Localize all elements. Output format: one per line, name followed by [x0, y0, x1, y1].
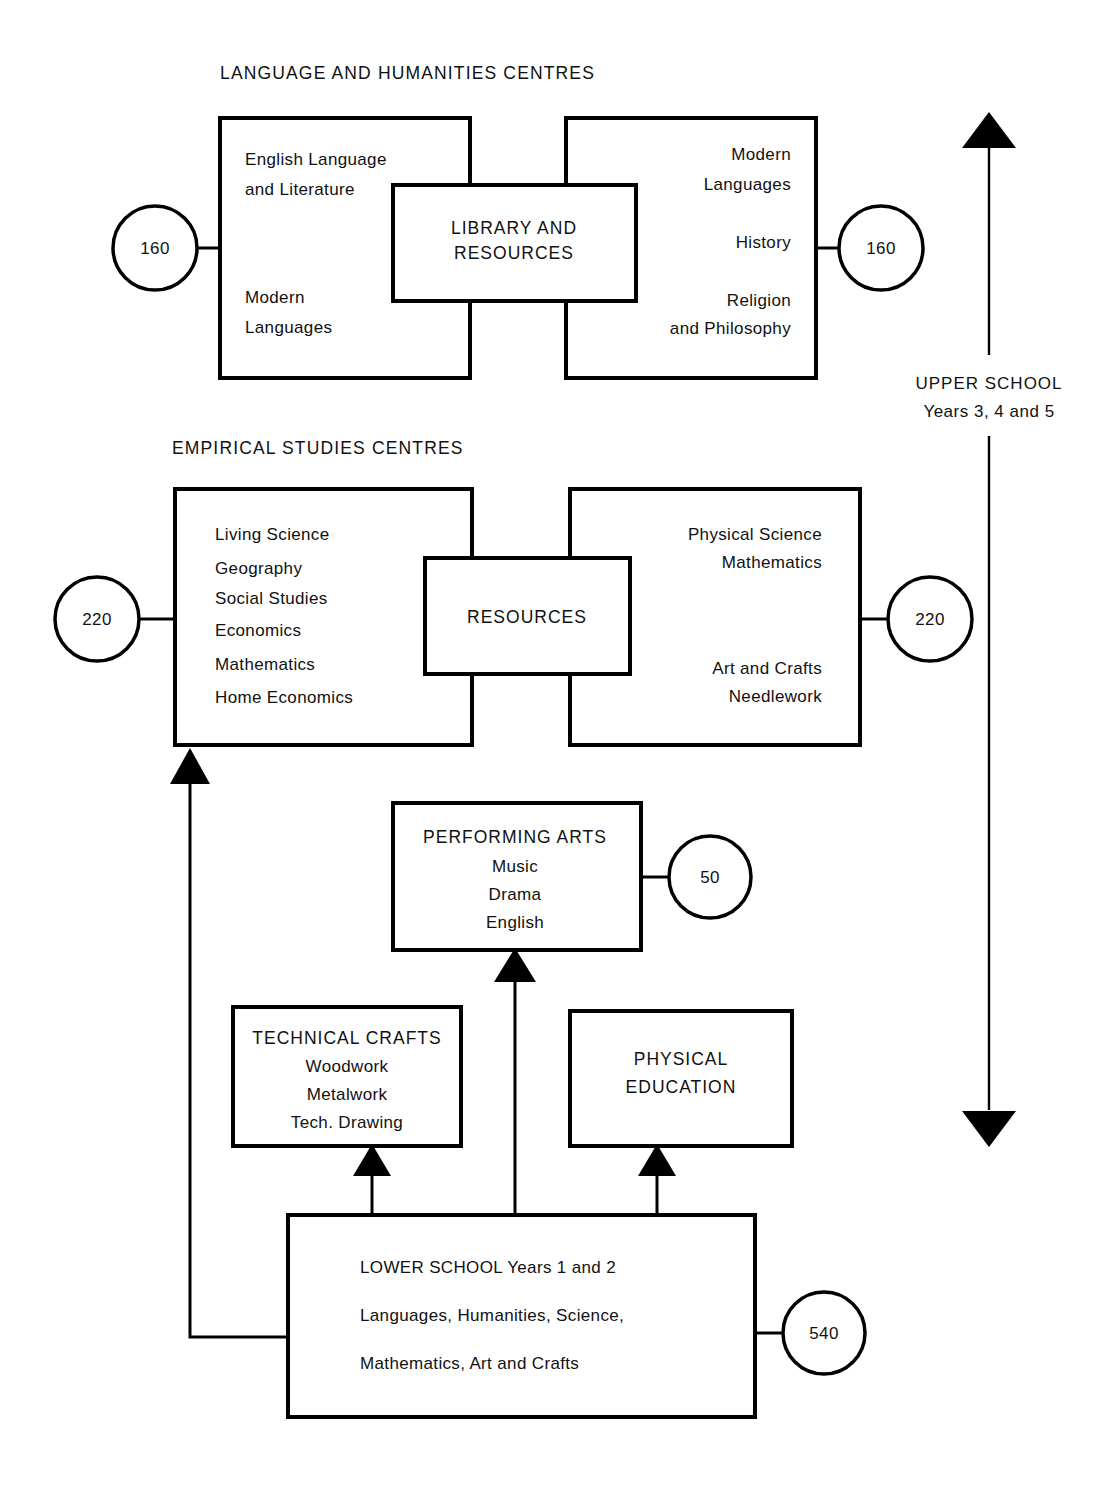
upper-school-label-line-2: Years 3, 4 and 5: [923, 402, 1054, 421]
empirical-right-line-1: Physical Science: [688, 525, 822, 544]
lower-to-physical-education-arrowhead: [638, 1144, 676, 1176]
language-left-line-4: Languages: [245, 318, 332, 337]
language-right-line-5: and Philosophy: [670, 319, 791, 338]
lower-to-technical-crafts-arrowhead: [353, 1144, 391, 1176]
language-right-line-2: Languages: [704, 175, 791, 194]
physical-education-line-1: PHYSICAL: [634, 1049, 729, 1069]
language-right-line-1: Modern: [731, 145, 791, 164]
language-left-line-3: Modern: [245, 288, 305, 307]
language-left-count-label: 160: [140, 239, 170, 258]
performing-arts-count-label: 50: [700, 868, 720, 887]
empirical-studies-heading: EMPIRICAL STUDIES CENTRES: [172, 438, 464, 458]
lower-school-line-2: Languages, Humanities, Science,: [360, 1306, 624, 1325]
language-left-line-1: English Language: [245, 150, 387, 169]
technical-crafts-line-2: Woodwork: [306, 1057, 389, 1076]
empirical-right-line-2: Mathematics: [722, 553, 822, 572]
diagram-canvas: LANGUAGE AND HUMANITIES CENTRES English …: [0, 0, 1119, 1492]
school-organisation-diagram: LANGUAGE AND HUMANITIES CENTRES English …: [0, 0, 1119, 1492]
performing-arts-line-3: Drama: [489, 885, 542, 904]
performing-arts-line-1: PERFORMING ARTS: [423, 827, 607, 847]
empirical-left-line-2: Geography: [215, 559, 302, 578]
language-right-line-4: Religion: [727, 291, 791, 310]
empirical-left-line-3: Social Studies: [215, 589, 328, 608]
empirical-right-line-3: Art and Crafts: [712, 659, 822, 678]
language-right-count-label: 160: [866, 239, 896, 258]
upper-school-arrow-down-head: [962, 1111, 1016, 1147]
technical-crafts-line-1: TECHNICAL CRAFTS: [252, 1028, 441, 1048]
technical-crafts-line-3: Metalwork: [307, 1085, 388, 1104]
library-resources-line-1: LIBRARY AND: [451, 218, 577, 238]
empirical-left-line-6: Home Economics: [215, 688, 353, 707]
upper-school-arrow-up-head: [962, 112, 1016, 148]
lower-school-line-1: LOWER SCHOOL Years 1 and 2: [360, 1258, 616, 1277]
empirical-left-count-label: 220: [82, 610, 112, 629]
library-resources-line-2: RESOURCES: [454, 243, 574, 263]
lower-school-line-3: Mathematics, Art and Crafts: [360, 1354, 579, 1373]
lower-school-count-label: 540: [809, 1324, 839, 1343]
resources-line-1: RESOURCES: [467, 607, 587, 627]
lower-to-empirical-studies-arrowhead: [170, 748, 210, 784]
technical-crafts-line-4: Tech. Drawing: [291, 1113, 403, 1132]
empirical-right-line-4: Needlework: [729, 687, 822, 706]
empirical-right-count-label: 220: [915, 610, 945, 629]
language-left-line-2: and Literature: [245, 180, 355, 199]
physical-education-line-2: EDUCATION: [626, 1077, 737, 1097]
empirical-left-line-4: Economics: [215, 621, 301, 640]
language-humanities-heading: LANGUAGE AND HUMANITIES CENTRES: [220, 63, 595, 83]
upper-school-label-line-1: UPPER SCHOOL: [915, 374, 1062, 393]
performing-arts-line-2: Music: [492, 857, 538, 876]
performing-arts-line-4: English: [486, 913, 544, 932]
language-right-line-3: History: [736, 233, 791, 252]
empirical-left-line-1: Living Science: [215, 525, 330, 544]
lower-to-performing-arts-arrowhead: [494, 948, 536, 982]
empirical-left-line-5: Mathematics: [215, 655, 315, 674]
